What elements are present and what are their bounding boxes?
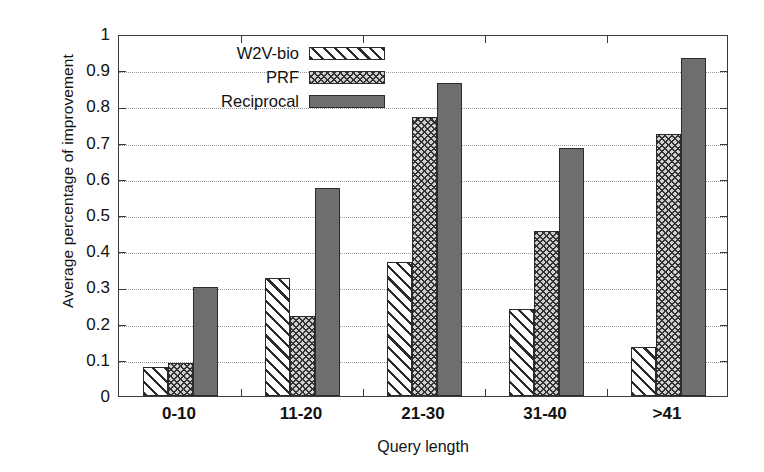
legend-item: W2V-bio [150,42,385,64]
axis-tick [720,71,727,72]
axis-tick [119,216,126,217]
bar-w2v-bio-0-10 [143,367,168,396]
legend-swatch [309,71,385,84]
y-axis-tick-label: 0.4 [10,242,110,262]
bar-prf-31-40 [534,231,559,396]
axis-tick [720,361,727,362]
y-axis-tick-label: 1 [10,25,110,45]
y-axis-tick-label: 0.6 [10,170,110,190]
x-axis-tick [607,36,608,43]
axis-tick [119,361,126,362]
bar-w2v-bio-11-20 [265,278,290,396]
bar-chart-figure: Average percentage of improvement 00.10.… [0,0,764,472]
legend-label: PRF [266,68,309,87]
axis-tick [119,252,126,253]
x-axis-tick-label: 0-10 [119,404,239,424]
y-axis-tick-label: 0.9 [10,61,110,81]
x-axis-tick-label: >41 [607,404,727,424]
axis-tick [119,144,126,145]
y-axis-tick-label: 0.3 [10,278,110,298]
y-axis-tick-label: 0.2 [10,315,110,335]
axis-tick [119,108,126,109]
y-axis-tick-labels: 00.10.20.30.40.50.60.70.80.91 [8,35,110,397]
legend-item: Reciprocal [150,90,385,112]
bar-reciprocal-31-40 [559,148,584,396]
axis-tick [720,252,727,253]
legend-label: Reciprocal [221,92,309,111]
x-axis-tick [485,389,486,396]
legend-swatch [309,95,385,108]
bar-reciprocal-11-20 [315,188,340,396]
axis-tick [720,325,727,326]
bar-prf--41 [656,134,681,396]
axis-tick [720,108,727,109]
chart-legend: W2V-bioPRFReciprocal [150,42,385,114]
x-axis-tick-label: 31-40 [485,404,605,424]
legend-item: PRF [150,66,385,88]
y-axis-tick-label: 0.8 [10,97,110,117]
y-axis-tick-label: 0.7 [10,134,110,154]
bar-reciprocal-0-10 [193,287,218,396]
bar-w2v-bio--41 [631,347,656,396]
bar-reciprocal-21-30 [437,83,462,396]
bar-w2v-bio-21-30 [387,262,412,396]
y-axis-tick-label: 0.1 [10,351,110,371]
axis-tick [720,216,727,217]
legend-swatch [309,47,385,60]
x-axis-tick-label: 21-30 [363,404,483,424]
bar-reciprocal--41 [681,58,706,396]
axis-tick [119,325,126,326]
legend-label: W2V-bio [237,44,309,63]
x-axis-tick [363,389,364,396]
axis-tick [720,289,727,290]
bar-prf-0-10 [168,363,193,396]
bar-prf-21-30 [412,117,437,396]
axis-tick [720,144,727,145]
axis-tick [119,71,126,72]
x-axis-tick [485,36,486,43]
axis-tick [119,180,126,181]
axis-tick [720,180,727,181]
y-axis-tick-label: 0 [10,387,110,407]
bar-w2v-bio-31-40 [509,309,534,396]
bar-prf-11-20 [290,316,315,396]
x-axis-tick-labels: 0-1011-2021-3031-40>41 [118,404,728,430]
x-axis-title: Query length [118,438,728,456]
axis-tick [119,289,126,290]
x-axis-tick [241,389,242,396]
x-axis-tick-label: 11-20 [241,404,361,424]
y-axis-tick-label: 0.5 [10,206,110,226]
x-axis-tick [607,389,608,396]
